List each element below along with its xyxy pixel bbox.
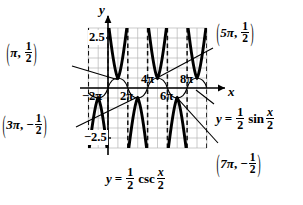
callout-x-value: 5π [220, 25, 234, 41]
equation-function-name: csc [138, 171, 155, 187]
callout-close-paren: ) [44, 110, 47, 140]
equation-equals: = [115, 171, 122, 187]
callout-close-paren: ) [251, 18, 254, 48]
callout-comma: , [234, 25, 237, 41]
equation-argument: x 2 [157, 166, 165, 191]
fraction-denominator: 2 [236, 118, 244, 131]
x-tick-label-8pi: 8π [180, 72, 193, 87]
fraction-numerator: x [157, 166, 165, 178]
equation-function-name: sin [248, 111, 264, 127]
callout-fraction: 1 2 [35, 113, 43, 137]
callout-fraction: 1 2 [241, 21, 249, 45]
x-tick-label-6pi: 6π [160, 89, 173, 104]
equation-equals: = [225, 111, 232, 127]
fraction-numerator: 1 [249, 152, 257, 164]
fraction-numerator: 1 [126, 166, 134, 178]
point-5pi-half [156, 76, 159, 79]
callout-comma: , [234, 156, 237, 172]
x-axis-label: x [228, 84, 235, 100]
x-tick-label-2pi: 2π [120, 89, 133, 104]
fraction-denominator: 2 [126, 178, 134, 191]
fraction-denominator: 2 [25, 52, 33, 65]
equation-cosecant-label: y = 1 2 csc x 2 [106, 166, 166, 191]
x-axis-arrowhead [218, 85, 225, 92]
fraction-numerator: 1 [241, 21, 249, 33]
equation-argument: x 2 [266, 106, 274, 131]
callout-comma: , [20, 117, 23, 133]
callout-fraction: 1 2 [249, 152, 257, 176]
y-tick-label-2point5: 2.5 [88, 30, 106, 45]
equation-lhs: y [216, 111, 222, 127]
y-tick-label-neg2point5: −2.5 [83, 130, 108, 145]
point-7pi-neg-half [176, 96, 179, 99]
callout-close-paren: ) [34, 38, 37, 68]
callout-open-paren: ( [7, 38, 10, 68]
x-tick-label-4pi: 4π [141, 72, 154, 87]
y-axis-label: y [99, 2, 105, 18]
callout-7pi-neg-half: ( 7π , − 1 2 ) [216, 152, 262, 176]
callout-3pi-neg-half: ( 3π , − 1 2 ) [2, 113, 48, 137]
fraction-numerator: 1 [35, 113, 43, 125]
fraction-numerator: 1 [25, 41, 33, 53]
callout-x-value: π [10, 45, 17, 61]
x-tick-label-neg2pi: −2π [82, 89, 102, 104]
point-pi-half [116, 76, 119, 79]
equation-sine-label: y = 1 2 sin x 2 [216, 106, 275, 131]
fraction-denominator: 2 [241, 32, 249, 45]
fraction-denominator: 2 [35, 124, 43, 137]
fraction-numerator: x [266, 106, 274, 118]
equation-coefficient: 1 2 [126, 166, 134, 191]
callout-sign: − [240, 156, 247, 172]
figure-canvas: y x 2.5 −2.5 −2π 2π 6π 4π 8π ( π , 1 2 )… [0, 0, 303, 205]
y-axis-arrowhead [105, 15, 112, 23]
callout-comma: , [17, 45, 20, 61]
callout-x-value: 7π [220, 156, 234, 172]
callout-open-paren: ( [3, 110, 6, 140]
callout-5pi-half: ( 5π , 1 2 ) [216, 21, 254, 45]
callout-close-paren: ) [258, 149, 261, 179]
fraction-numerator: 1 [236, 106, 244, 118]
equation-lhs: y [106, 171, 112, 187]
fraction-denominator: 2 [157, 178, 165, 191]
callout-pi-half: ( π , 1 2 ) [6, 41, 38, 65]
equation-coefficient: 1 2 [236, 106, 244, 131]
callout-open-paren: ( [217, 149, 220, 179]
callout-sign: − [26, 117, 33, 133]
callout-x-value: 3π [6, 117, 20, 133]
fraction-denominator: 2 [266, 118, 274, 131]
callout-fraction: 1 2 [25, 41, 33, 65]
fraction-denominator: 2 [249, 163, 257, 176]
callout-open-paren: ( [217, 18, 220, 48]
point-3pi-neg-half [136, 96, 139, 99]
